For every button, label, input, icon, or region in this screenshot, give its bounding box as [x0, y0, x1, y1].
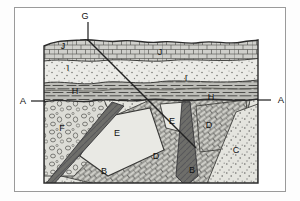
- label-unit-J-1: J: [61, 41, 66, 51]
- label-section-A-left: A: [20, 95, 27, 106]
- label-unit-H-1: H: [72, 86, 79, 96]
- label-unit-F: F: [59, 123, 65, 133]
- unit-I-sandstone: [44, 59, 258, 85]
- geologic-cross-section-figure: A A G J J I I H H F E E D D C B B: [0, 0, 300, 201]
- label-unit-D-1: D: [153, 151, 160, 161]
- label-section-A-right: A: [278, 94, 285, 105]
- label-unit-B-1: B: [101, 166, 107, 176]
- label-unit-C: C: [233, 145, 240, 155]
- label-unit-D-2: D: [206, 120, 213, 130]
- sub-unconformity-units: [40, 96, 262, 186]
- label-unit-E-2: E: [169, 116, 175, 126]
- label-unit-H-2: H: [208, 92, 215, 102]
- label-unit-E-1: E: [114, 128, 120, 138]
- block-body: [40, 36, 262, 186]
- label-unit-B-2: B: [189, 165, 195, 175]
- label-unit-I-2: I: [185, 73, 188, 83]
- label-unit-J-2: J: [158, 47, 163, 57]
- label-fault-G: G: [81, 11, 88, 21]
- label-unit-I-1: I: [67, 63, 70, 73]
- cross-section-drawing: A A G J J I I H H F E E D D C B B: [0, 0, 300, 201]
